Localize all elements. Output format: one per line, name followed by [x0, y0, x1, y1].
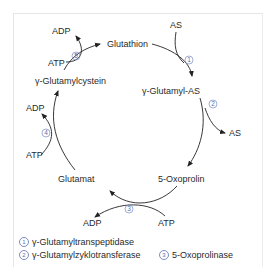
node-5-oxoprolin: 5-Oxoprolin: [158, 174, 205, 184]
legend-label-3: 5-Oxoprolinase: [172, 250, 233, 260]
step-1-marker: 1: [185, 56, 193, 64]
node-glutathion: Glutathion: [107, 39, 148, 49]
svg-text:3: 3: [127, 205, 131, 212]
legend-number-2: 2: [19, 250, 29, 260]
step-3-marker: 3: [125, 205, 133, 213]
arrow-glutamat-to-glutamylcystein: [53, 91, 75, 170]
svg-text:1: 1: [187, 56, 191, 63]
label-adp-4: ADP: [26, 103, 45, 113]
legend-item-2: 2γ-Glutamylzyklotransferase: [19, 250, 141, 260]
arrow-glutathion-to-glutamyl-as: [152, 44, 192, 76]
label-atp-3: ATP: [158, 218, 175, 228]
legend-item-3: 35-Oxoprolinase: [159, 250, 233, 260]
svg-text:4: 4: [44, 129, 48, 136]
node-gamma-glutamyl-as: γ-Glutamyl-AS: [142, 86, 200, 96]
svg-text:5: 5: [74, 52, 78, 59]
node-glutamat: Glutamat: [58, 174, 95, 184]
arrow-as-out: [205, 108, 225, 133]
step-2-marker: 2: [209, 100, 217, 108]
legend-item-1: 1γ-Glutamyltranspeptidase: [19, 237, 134, 247]
arrow-glutamyl-as-to-oxoprolin: [188, 98, 203, 166]
legend-number-3: 3: [159, 250, 169, 260]
step-4-marker: 4: [42, 129, 50, 137]
label-as-in: AS: [170, 20, 182, 30]
label-adp-5: ADP: [52, 26, 71, 36]
arrow-oxoprolin-to-glutamat: [110, 186, 177, 203]
label-as-out: AS: [229, 128, 241, 138]
legend-number-1: 1: [19, 237, 29, 247]
label-adp-3: ADP: [83, 218, 102, 228]
svg-text:2: 2: [211, 100, 215, 107]
arrow-as-in: [175, 32, 184, 63]
label-atp-5: ATP: [48, 58, 65, 68]
step-5-marker: 5: [72, 52, 80, 60]
glutathione-cycle-diagram: Glutathion γ-Glutamyl-AS 5-Oxoprolin Glu…: [0, 0, 263, 267]
label-atp-4: ATP: [26, 150, 43, 160]
arrow-glutamylcystein-to-glutathion: [64, 44, 100, 70]
legend-label-2: γ-Glutamylzyklotransferase: [32, 250, 141, 260]
node-gamma-glutamylcystein: γ-Glutamylcystein: [35, 76, 106, 86]
legend-label-1: γ-Glutamyltranspeptidase: [32, 237, 134, 247]
